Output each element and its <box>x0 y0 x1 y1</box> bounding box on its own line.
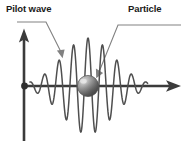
axes <box>19 29 181 142</box>
pilot-wave-diagram <box>0 0 189 152</box>
leader-line-particle <box>96 25 181 78</box>
sphere-highlight <box>80 79 87 84</box>
particle-sphere <box>77 75 98 96</box>
label-pilot-wave: Pilot wave <box>6 4 51 14</box>
label-particle: Particle <box>128 4 162 14</box>
leader-arrow-pilot-wave <box>57 49 65 58</box>
origin-dot <box>21 83 28 90</box>
figure-container: Pilot wave Particle <box>0 0 189 152</box>
